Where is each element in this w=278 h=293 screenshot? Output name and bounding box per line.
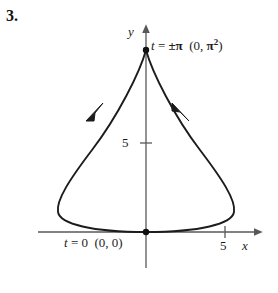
cusp-label-pi-squared: π2 <box>207 38 219 53</box>
x-axis-label: x <box>242 239 248 252</box>
cusp-point-label: t = ±π (0, π2) <box>151 38 223 52</box>
cusp-label-coord-open: (0, <box>183 38 207 53</box>
parametric-curve-plot <box>0 0 278 293</box>
direction-arrow-left <box>86 103 103 121</box>
origin-point-marker <box>143 229 149 235</box>
x-axis-tick-label-5: 5 <box>220 239 227 252</box>
cusp-label-eq: = <box>155 38 169 53</box>
origin-point-label: t = 0 (0, 0) <box>64 236 123 249</box>
figure-container: 3. y x 5 5 t = ±π (0, π2) t = 0 (0, 0) <box>0 0 278 293</box>
y-axis-label: y <box>128 25 134 38</box>
y-axis-tick-label-5: 5 <box>122 136 129 149</box>
origin-label-rest: = 0 (0, 0) <box>68 235 123 250</box>
cusp-point-marker <box>143 47 149 53</box>
cusp-label-pm-pi: ±π <box>168 38 182 53</box>
cusp-label-coord-close: ) <box>218 38 222 53</box>
